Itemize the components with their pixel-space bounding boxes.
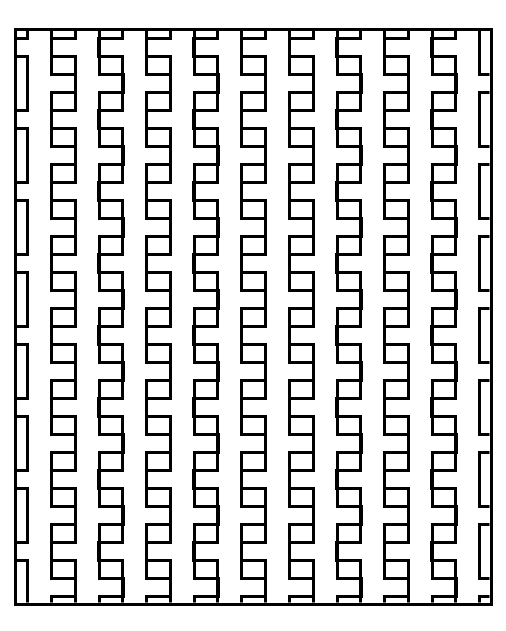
pattern-canvas	[0, 0, 506, 631]
pattern-artwork	[0, 0, 506, 631]
